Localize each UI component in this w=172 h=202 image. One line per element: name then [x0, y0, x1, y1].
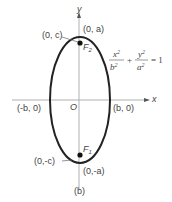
svg-text:a2: a2 — [137, 62, 145, 72]
figure-caption: (b) — [74, 186, 85, 196]
svg-text:x2: x2 — [112, 49, 120, 59]
y-axis-label: y — [76, 4, 82, 14]
focus-f2-dot — [77, 40, 82, 45]
x-axis-arrow-icon — [144, 98, 150, 102]
focus-f1-label: F1 — [83, 144, 92, 155]
right-covertex-label: (b, 0) — [113, 103, 134, 113]
x-axis-label: x — [151, 94, 157, 104]
focus-f2-label: F2 — [83, 42, 93, 53]
top-vertex-label: (0, a) — [83, 24, 104, 34]
left-covertex-label: (-b, 0) — [17, 103, 41, 113]
svg-text:= 1: = 1 — [151, 55, 163, 65]
focus-f1-dot — [77, 152, 82, 157]
ellipse-equation: x2 b2 + y2 a2 = 1 — [109, 49, 163, 72]
svg-text:+: + — [127, 55, 132, 65]
bottom-vertex-label: (0,-a) — [83, 166, 105, 176]
svg-text:y2: y2 — [137, 49, 145, 59]
focus-upper-coord-label: (0, c) — [42, 30, 63, 40]
origin-label: O — [70, 102, 77, 112]
svg-text:b2: b2 — [110, 62, 118, 72]
ellipse-diagram: y x O (0, a) (0, c) F2 (-b, 0) (b, 0) F1… — [0, 0, 172, 202]
focus-lower-coord-label: (0,-c) — [34, 156, 55, 166]
